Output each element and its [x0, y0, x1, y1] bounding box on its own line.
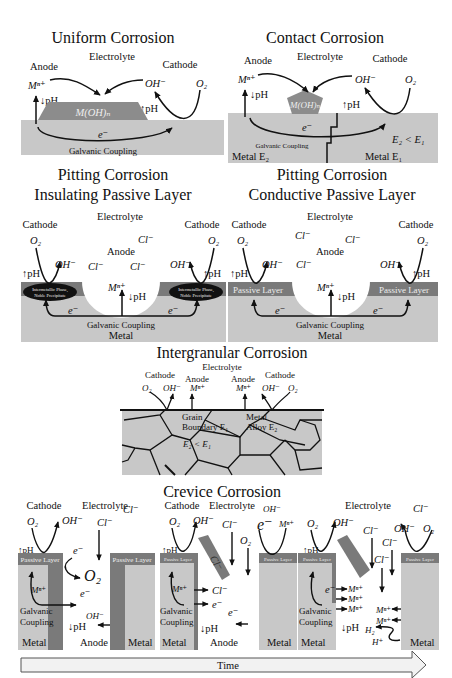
contact-metal-ion: Mⁿ⁺ [237, 74, 256, 85]
pc-cl-2: Cl⁻ [345, 234, 360, 245]
cs3-h2: H₂ [364, 625, 375, 635]
pi-metal-label: Metal [109, 330, 134, 341]
contact-ph-up: ↑pH [342, 99, 361, 110]
cs2-metal-left-label: Metal [162, 637, 187, 648]
cs2-o2-right: O₂ [240, 535, 252, 546]
cs2-cathode: Cathode [165, 500, 200, 511]
pc-metal-ion: Mⁿ⁺ [316, 282, 335, 293]
contact-metal-left: Metal E₂ [232, 151, 270, 162]
pi-electron-left: e⁻ [68, 305, 78, 316]
cs2-metal-right [259, 553, 297, 650]
cs1-o2: O₂ [27, 516, 39, 527]
cs1-coupling: Coupling [20, 617, 54, 627]
cs3-metal-right-label: Metal [410, 637, 435, 648]
uniform-precipitate-label: M(OH)ₙ [74, 107, 110, 119]
cs3-cl-2: Cl⁻ [382, 537, 397, 548]
cs3-passive-layer-right-label: Passive Layer [406, 557, 434, 562]
pitting-insulating-title-1: Pitting Corrosion [58, 166, 169, 184]
ig-o2-left: O₂ [142, 383, 152, 393]
cs1-electron-1: e⁻ [73, 545, 83, 556]
cs3-corroded-slab [337, 535, 370, 578]
panel-uniform-corrosion: Uniform Corrosion Electrolyte Anode Cath… [21, 29, 224, 156]
uniform-metal-ion: Mⁿ⁺ [27, 80, 46, 91]
pitting-conductive-title-1: Pitting Corrosion [277, 166, 388, 184]
cs2-cl-inside: Cl⁻ [212, 585, 227, 596]
pc-electron-left: e⁻ [275, 305, 285, 316]
uniform-anode-label: Anode [30, 61, 58, 72]
cs2-mn-right: Mⁿ⁺ [278, 519, 294, 529]
pc-metal-label: Metal [318, 330, 343, 341]
crevice-stage-3: Electrolyte Cl⁻ O₂ OH⁻ Cl⁻ Cl⁻ Cl⁻ OH⁻ O… [298, 500, 439, 650]
ig-grain-boundary-1: Grain [182, 412, 203, 422]
cs2-o2: O₂ [169, 516, 181, 527]
pi-cathode-left: Cathode [23, 219, 58, 230]
contact-precipitate-label: M(OH)ₙ [289, 100, 320, 110]
cs3-galvanic: Galvanic [299, 606, 331, 616]
ig-cathode-right: Cathode [265, 370, 295, 380]
cs2-electron-2: e⁻ [228, 607, 238, 618]
cs3-mn-3: Mⁿ⁺ [347, 604, 363, 614]
cs2-metal-right-label: Metal [267, 637, 292, 648]
pi-intermetallic-right [169, 283, 223, 301]
contact-title: Contact Corrosion [266, 29, 384, 46]
cs3-passive-layer-left-label: Passive Layer [303, 557, 331, 562]
cs1-passive-layer-left-label: Passive Layer [20, 556, 60, 564]
pc-electrolyte-label: Electrolyte [307, 211, 353, 222]
cs3-cl-top: Cl⁻ [413, 503, 428, 514]
pi-intermetallic-left [23, 283, 77, 301]
pc-cathode-right: Cathode [399, 219, 434, 230]
crevice-title: Crevice Corrosion [163, 483, 281, 500]
contact-potential: E₂ < E₁ [391, 134, 424, 145]
cs3-oh: OH⁻ [333, 517, 354, 528]
crevice-stage-2: Cathode Electrolyte OH⁻ O₂ OH⁻ Cl⁻ O₂ e⁻… [160, 500, 297, 650]
cs1-electron-2: e⁻ [80, 588, 90, 599]
cs3-mn-4: Mⁿ⁺ [375, 605, 391, 615]
panel-pitting-conductive: Pitting Corrosion Conductive Passive Lay… [228, 166, 438, 342]
pi-electron-right: e⁻ [168, 305, 178, 316]
cs3-cl-1: Cl⁻ [363, 525, 378, 536]
cs1-ph-down: ↓pH [68, 621, 87, 632]
cs1-passive-layer-right-label: Passive Layer [112, 556, 152, 564]
cs3-ph-down: ↓pH [341, 622, 360, 633]
cs1-o2-inside: O₂ [84, 567, 102, 584]
ig-mn-right: Mⁿ⁺ [235, 383, 251, 393]
pi-intermetallic-left-2: Noble Precipitate [34, 293, 65, 298]
crevice-stage-1: Cathode Electrolyte Cl⁻ O₂ OH⁻ Cl⁻ ↑pH P… [18, 500, 155, 650]
time-arrow: Time [21, 651, 426, 678]
cs2-mn: Mⁿ⁺ [171, 584, 187, 594]
contact-cathode-label: Cathode [373, 53, 408, 64]
cs2-anode-label: Anode [210, 637, 238, 648]
cs3-metal-left [298, 553, 336, 650]
ig-oh-right: OH⁻ [262, 383, 280, 393]
pi-ph-down: ↓pH [128, 291, 147, 302]
pc-o2-left: O₂ [237, 235, 249, 246]
pi-galvanic-coupling: Galvanic Coupling [87, 320, 156, 330]
cs2-oh-top: OH⁻ [263, 504, 281, 514]
cs2-ph-down: ↓pH [200, 623, 219, 634]
ig-potential: E₂ < E₁ [182, 439, 211, 449]
ig-o2-right: O₂ [288, 383, 298, 393]
time-label: Time [217, 660, 239, 671]
contact-hydroxide: OH⁻ [355, 74, 376, 85]
cs2-passive-layer-left-label: Passive Layer [164, 557, 192, 562]
pi-electrolyte-label: Electrolyte [97, 211, 143, 222]
cs1-metal-left-label: Metal [22, 637, 47, 648]
pi-o2-left: O₂ [30, 235, 42, 246]
pc-ph-down: ↓pH [337, 291, 356, 302]
ig-mn-left: Mⁿ⁺ [189, 383, 205, 393]
cs3-h-plus: H⁺ [371, 637, 383, 647]
intergranular-title: Intergranular Corrosion [156, 344, 307, 362]
contact-oxygen: O₂ [405, 74, 417, 85]
contact-ph-down: ↓pH [250, 89, 269, 100]
cs3-mn-5: Mⁿ⁺ [375, 616, 391, 626]
contact-electrolyte-label: Electrolyte [297, 51, 343, 62]
pc-cl-3: Cl⁻ [296, 259, 311, 270]
ig-oh-left: OH⁻ [163, 383, 181, 393]
cs2-cl: Cl⁻ [222, 519, 237, 530]
pi-o2-right: O₂ [208, 235, 220, 246]
cs3-electron: e⁻ [325, 584, 335, 595]
pi-ph-up-left: ↑pH [22, 268, 41, 279]
cs2-electrolyte: Electrolyte [209, 500, 255, 511]
uniform-hydroxide: OH⁻ [145, 78, 166, 89]
pi-anode-label: Anode [107, 246, 135, 257]
